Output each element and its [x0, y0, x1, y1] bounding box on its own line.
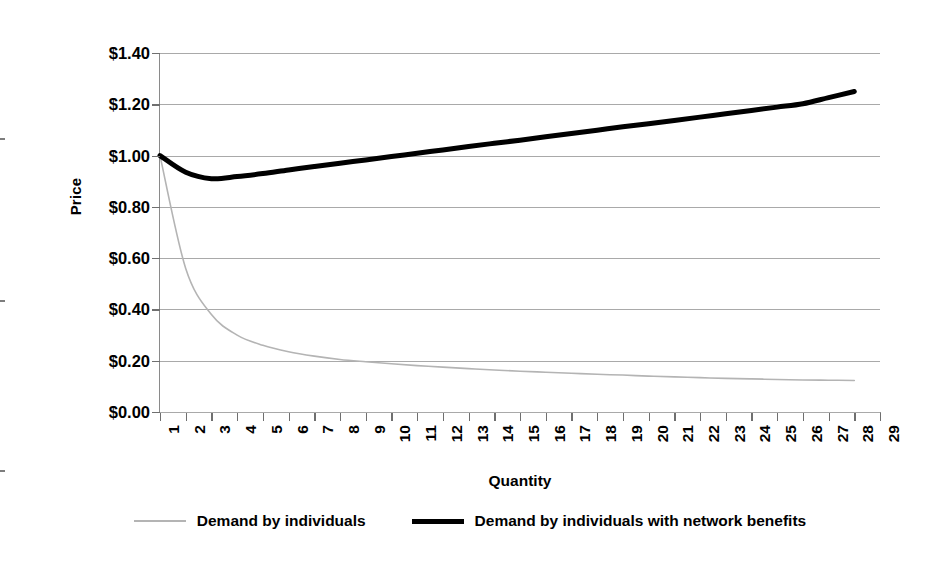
- x-axis-tick-mark: [880, 413, 881, 421]
- legend-swatch-black-line-icon: [412, 519, 464, 524]
- x-axis-tick-mark: [314, 413, 315, 421]
- y-axis-tick-mark: [152, 309, 160, 310]
- y-axis-tick-label: $1.00: [80, 147, 150, 164]
- y-axis-tick-label: $0.40: [80, 301, 150, 318]
- x-axis-tick-mark: [340, 413, 341, 421]
- legend-item-demand-by-individuals[interactable]: Demand by individuals: [134, 512, 366, 530]
- x-axis-tick-mark: [726, 413, 727, 421]
- x-axis-tick-label: 24: [757, 425, 773, 471]
- x-axis-tick-label: 1: [166, 425, 182, 471]
- x-axis-tick-label: 25: [783, 425, 799, 471]
- y-axis-tick-mark: [152, 412, 160, 413]
- x-axis-tick-label: 26: [809, 425, 825, 471]
- x-axis-tick-mark: [571, 413, 572, 421]
- x-axis-tick-label: 19: [629, 425, 645, 471]
- x-axis-tick-mark: [597, 413, 598, 421]
- scan-edge-artifact: [0, 300, 5, 302]
- x-axis-tick-label: 16: [552, 425, 568, 471]
- x-axis-tick-label: 10: [397, 425, 413, 471]
- x-axis-tick-label: 27: [835, 425, 851, 471]
- x-axis-tick-mark: [751, 413, 752, 421]
- y-axis-tick-mark: [152, 207, 160, 208]
- x-axis-tick-label: 9: [372, 425, 388, 471]
- x-axis-tick-mark: [160, 413, 161, 421]
- x-axis-tick-mark: [520, 413, 521, 421]
- demand-curve-chart: Price $1.40$1.20$1.00$0.80$0.60$0.40$0.2…: [0, 0, 940, 573]
- x-axis-tick-mark: [186, 413, 187, 421]
- y-axis-tick-label: $0.80: [80, 199, 150, 216]
- series-line-demand-by-individuals: [160, 156, 854, 381]
- y-axis-tick-label: $0.60: [80, 250, 150, 267]
- x-axis-tick-mark: [263, 413, 264, 421]
- y-axis-tick-label: $0.20: [80, 352, 150, 369]
- x-axis-tick-label: 14: [500, 425, 516, 471]
- x-axis-tick-mark: [803, 413, 804, 421]
- x-axis-tick-label: 7: [320, 425, 336, 471]
- legend-label: Demand by individuals: [197, 512, 366, 530]
- x-axis-tick-mark: [700, 413, 701, 421]
- x-axis-tick-label: 15: [526, 425, 542, 471]
- y-axis-tick-mark: [152, 53, 160, 54]
- series-lines: [160, 53, 880, 412]
- x-axis-tick-label: 28: [860, 425, 876, 471]
- legend-item-demand-with-network-benefits[interactable]: Demand by individuals with network benef…: [412, 512, 807, 530]
- x-axis-tick-label: 20: [655, 425, 671, 471]
- scan-edge-artifact: [0, 470, 5, 472]
- x-axis-tick-mark: [289, 413, 290, 421]
- y-axis-tick-label: $1.20: [80, 96, 150, 113]
- y-axis-tick-mark: [152, 104, 160, 105]
- scan-edge-artifact: [0, 138, 5, 140]
- x-axis-tick-label: 12: [449, 425, 465, 471]
- x-axis-tick-mark: [623, 413, 624, 421]
- y-axis-tick-mark: [152, 258, 160, 259]
- x-axis-tick-label: 22: [706, 425, 722, 471]
- y-axis-tick-label: $0.00: [80, 404, 150, 421]
- x-axis-tick-mark: [469, 413, 470, 421]
- x-axis-tick-label: 29: [886, 425, 902, 471]
- y-axis-tick-mark: [152, 361, 160, 362]
- x-axis-tick-mark: [649, 413, 650, 421]
- legend-label: Demand by individuals with network benef…: [475, 512, 807, 530]
- x-axis-tick-label: 6: [295, 425, 311, 471]
- x-axis-tick-label: 18: [603, 425, 619, 471]
- x-axis-tick-mark: [777, 413, 778, 421]
- x-axis-tick-mark: [366, 413, 367, 421]
- x-axis-tick-mark: [546, 413, 547, 421]
- x-axis-tick-mark: [391, 413, 392, 421]
- y-axis-tick-label: $1.40: [80, 45, 150, 62]
- legend-swatch-gray-line-icon: [134, 520, 186, 522]
- x-axis-tick-label: 23: [732, 425, 748, 471]
- x-axis-tick-mark: [443, 413, 444, 421]
- x-axis-tick-mark: [854, 413, 855, 421]
- x-axis-tick-label: 21: [680, 425, 696, 471]
- plot-area: [160, 53, 880, 412]
- chart-legend: Demand by individuals Demand by individu…: [0, 512, 940, 530]
- x-axis-tick-mark: [417, 413, 418, 421]
- x-axis-title: Quantity: [160, 472, 880, 490]
- x-axis-tick-label: 11: [423, 425, 439, 471]
- x-axis-tick-label: 2: [192, 425, 208, 471]
- x-axis-tick-mark: [674, 413, 675, 421]
- y-axis-tick-labels: $1.40$1.20$1.00$0.80$0.60$0.40$0.20$0.00: [80, 0, 150, 573]
- x-axis-tick-label: 13: [475, 425, 491, 471]
- x-axis-tick-label: 4: [243, 425, 259, 471]
- x-axis-tick-mark: [237, 413, 238, 421]
- x-axis-tick-label: 5: [269, 425, 285, 471]
- x-axis-tick-label: 17: [577, 425, 593, 471]
- x-axis-tick-mark: [494, 413, 495, 421]
- series-line-demand-with-network-benefits: [160, 91, 854, 178]
- x-axis-tick-mark: [829, 413, 830, 421]
- x-axis-tick-mark: [211, 413, 212, 421]
- x-axis-tick-label: 8: [346, 425, 362, 471]
- x-axis-tick-label: 3: [217, 425, 233, 471]
- y-axis-tick-mark: [152, 156, 160, 157]
